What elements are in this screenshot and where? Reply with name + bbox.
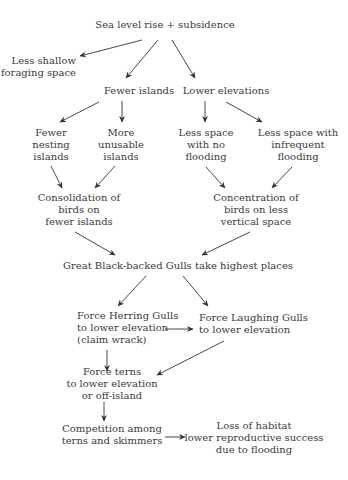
node-text: birds on less bbox=[213, 204, 298, 216]
arrow-more-unusable-to-consolidation bbox=[95, 166, 115, 188]
node-text: Less space bbox=[178, 127, 233, 139]
node-text: lower reproductive success bbox=[185, 432, 324, 444]
node-text: Force Herring Gulls bbox=[77, 310, 178, 322]
node-text: (claim wrack) bbox=[77, 334, 178, 346]
node-less-space-infrequent-flooding: Less space with infrequent flooding bbox=[258, 127, 338, 163]
node-text: Less space with bbox=[258, 127, 338, 139]
node-text: to lower elevation bbox=[199, 324, 308, 336]
node-text: Lower elevations bbox=[183, 85, 270, 97]
arrow-lower-elevations-to-less-space-infrequent bbox=[226, 102, 262, 122]
node-text: Consolidation of bbox=[38, 192, 121, 204]
node-great-black-backed-gulls: Great Black-backed Gulls take highest pl… bbox=[63, 260, 293, 272]
node-fewer-islands: Fewer islands bbox=[104, 85, 174, 97]
node-text: More bbox=[98, 127, 144, 139]
node-text: or off-island bbox=[66, 390, 157, 402]
node-text: to lower elevation bbox=[77, 322, 178, 334]
node-text: birds on bbox=[38, 204, 121, 216]
node-force-laughing-gulls: Force Laughing Gulls to lower elevation bbox=[199, 312, 308, 336]
node-text: vertical space bbox=[213, 216, 298, 228]
node-text: Great Black-backed Gulls take highest pl… bbox=[63, 260, 293, 272]
node-text: Force Laughing Gulls bbox=[199, 312, 308, 324]
arrow-fewer-islands-to-fewer-nesting bbox=[60, 102, 99, 122]
node-text: infrequent bbox=[258, 139, 338, 151]
node-text: Force terns bbox=[66, 366, 157, 378]
node-text: to lower elevation bbox=[66, 378, 157, 390]
node-sea-level-rise: Sea level rise + subsidence bbox=[95, 19, 234, 31]
node-more-unusable-islands: More unusable islands bbox=[98, 127, 144, 163]
node-force-terns: Force terns to lower elevation or off-is… bbox=[66, 366, 157, 402]
node-text: Fewer islands bbox=[104, 85, 174, 97]
node-text: flooding bbox=[258, 151, 338, 163]
node-text: terns and skimmers bbox=[62, 435, 163, 447]
arrow-great-black-backed-to-herring bbox=[118, 276, 146, 306]
arrow-infrequent-to-concentration bbox=[272, 167, 292, 188]
node-text: Fewer bbox=[32, 127, 70, 139]
node-lower-elevations: Lower elevations bbox=[183, 85, 270, 97]
node-text: flooding bbox=[178, 151, 233, 163]
node-loss-of-habitat: Loss of habitat lower reproductive succe… bbox=[185, 420, 324, 456]
node-text: islands bbox=[32, 151, 70, 163]
flow-diagram: Sea level rise + subsidence Less shallow… bbox=[0, 0, 348, 480]
node-text: due to flooding bbox=[185, 444, 324, 456]
arrow-no-flooding-to-concentration bbox=[206, 167, 225, 188]
node-text: Competition among bbox=[62, 423, 163, 435]
arrow-root-to-lower-elevations bbox=[172, 40, 195, 78]
node-text: Sea level rise + subsidence bbox=[95, 19, 234, 31]
node-text: with no bbox=[178, 139, 233, 151]
node-fewer-nesting-islands: Fewer nesting islands bbox=[32, 127, 70, 163]
arrow-root-to-fewer-islands bbox=[126, 40, 158, 78]
arrow-concentration-to-great-black-backed bbox=[202, 232, 250, 255]
node-text: unusable bbox=[98, 139, 144, 151]
arrow-fewer-nesting-to-consolidation bbox=[51, 166, 62, 188]
node-text: nesting bbox=[32, 139, 70, 151]
node-less-shallow-foraging: Less shallow foraging space bbox=[1, 55, 76, 79]
node-force-herring-gulls: Force Herring Gulls to lower elevation (… bbox=[77, 310, 178, 346]
node-text: Loss of habitat bbox=[185, 420, 324, 432]
node-text: Less shallow bbox=[1, 55, 76, 67]
arrow-great-black-backed-to-laughing bbox=[183, 276, 208, 306]
node-concentration: Concentration of birds on less vertical … bbox=[213, 192, 298, 228]
arrow-consolidation-to-great-black-backed bbox=[75, 232, 115, 255]
node-competition: Competition among terns and skimmers bbox=[62, 423, 163, 447]
arrow-laughing-to-terns bbox=[157, 341, 224, 375]
node-text: islands bbox=[98, 151, 144, 163]
node-less-space-no-flooding: Less space with no flooding bbox=[178, 127, 233, 163]
node-consolidation: Consolidation of birds on fewer islands bbox=[38, 192, 121, 228]
node-text: foraging space bbox=[1, 67, 76, 79]
arrow-root-to-less-shallow bbox=[80, 40, 142, 56]
node-text: fewer islands bbox=[38, 216, 121, 228]
node-text: Concentration of bbox=[213, 192, 298, 204]
